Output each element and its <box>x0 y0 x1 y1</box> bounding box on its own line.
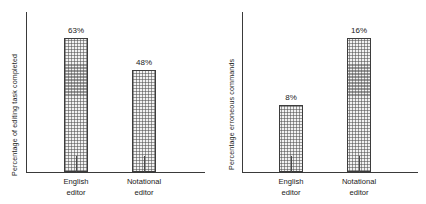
bar-value-english-editor: 63% <box>56 26 96 35</box>
x-tick-notational-editor <box>144 156 145 172</box>
x-category-line-2: editor <box>46 188 106 199</box>
x-tick-english-editor <box>291 156 292 172</box>
x-axis-line <box>242 172 418 173</box>
x-axis-line <box>26 172 205 173</box>
x-category-notational-editor: Notational editor <box>325 177 393 198</box>
x-category-notational-editor: Notational editor <box>110 177 178 198</box>
x-category-line-2: editor <box>325 188 393 199</box>
bar-english-editor <box>64 38 88 172</box>
y-axis-label: Percentage erroneous commands <box>228 59 236 170</box>
y-axis-label: Percentage of editing task completed <box>11 54 19 176</box>
x-category-english-editor: English editor <box>46 177 106 198</box>
x-category-english-editor: English editor <box>261 177 321 198</box>
chart-erroneous-commands: Percentage erroneous commands 8% English… <box>213 0 426 204</box>
x-category-line-2: editor <box>110 188 178 199</box>
x-category-line-1: Notational <box>110 177 178 188</box>
x-category-line-1: Notational <box>325 177 393 188</box>
x-category-line-1: English <box>46 177 106 188</box>
chart-editing-task-completed: Percentage of editing task completed 63%… <box>0 0 213 204</box>
x-tick-notational-editor <box>359 156 360 172</box>
y-axis-line <box>26 12 27 172</box>
y-axis-line <box>242 12 243 172</box>
x-tick-english-editor <box>76 156 77 172</box>
bar-notational-editor <box>347 38 371 172</box>
bar-value-notational-editor: 48% <box>124 58 164 67</box>
x-category-line-2: editor <box>261 188 321 199</box>
bar-value-english-editor: 8% <box>271 93 311 102</box>
bar-value-notational-editor: 16% <box>339 26 379 35</box>
x-category-line-1: English <box>261 177 321 188</box>
figure-two-bar-charts: Percentage of editing task completed 63%… <box>0 0 426 204</box>
